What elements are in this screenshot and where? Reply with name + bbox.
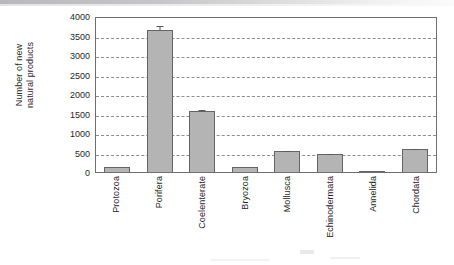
- bar-series: [96, 18, 436, 172]
- x-axis-category-label: Porifera: [154, 176, 164, 208]
- y-axis-tick-label: 1500: [52, 110, 90, 120]
- x-label-slot: Porifera: [138, 174, 181, 262]
- x-label-slot: Chordata: [394, 174, 437, 262]
- x-axis-category-label: Bryozoa: [240, 176, 250, 210]
- bar-slot: [96, 18, 139, 172]
- y-axis-tick-label: 2000: [52, 90, 90, 100]
- x-label-slot: Bryozoa: [223, 174, 266, 262]
- x-axis-category-label: Chordata: [411, 176, 421, 214]
- bar[interactable]: [232, 167, 258, 172]
- x-label-slot: Coelenterate: [181, 174, 224, 262]
- x-axis-category-label: Annelida: [368, 176, 378, 212]
- scan-artifact-top-band-secondary: [0, 4, 454, 6]
- y-axis-tick-label: 3000: [52, 51, 90, 61]
- y-axis-title-line-1: Number of new: [14, 44, 26, 106]
- error-bar-cap: [411, 149, 418, 150]
- y-axis-tick-label: 4000: [52, 12, 90, 22]
- y-axis-tick-label: 500: [52, 149, 90, 159]
- x-label-slot: Annelida: [352, 174, 395, 262]
- bar-slot: [139, 18, 182, 172]
- bar[interactable]: [189, 111, 215, 172]
- y-axis-tick-label: 2500: [52, 71, 90, 81]
- error-bar-cap: [284, 151, 291, 152]
- bar-slot: [224, 18, 267, 172]
- x-label-slot: Protozoa: [95, 174, 138, 262]
- error-bar-cap: [156, 26, 163, 27]
- y-axis-tick-label: 1000: [52, 129, 90, 139]
- x-axis-category-label: Coelenterate: [197, 176, 207, 229]
- x-axis-category-label: Echinodermata: [325, 176, 335, 238]
- y-axis-tick-label: 0: [52, 168, 90, 178]
- x-axis-category-label: Protozoa: [111, 176, 121, 213]
- x-label-slot: Echinodermata: [309, 174, 352, 262]
- bar[interactable]: [317, 154, 343, 172]
- y-axis-tick-labels: 05001000150020002500300035004000: [52, 17, 90, 173]
- x-label-slot: Mollusca: [266, 174, 309, 262]
- bar-slot: [351, 18, 394, 172]
- figure-canvas: Number of new natural products 050010001…: [0, 0, 454, 265]
- bar[interactable]: [104, 167, 130, 172]
- x-axis-category-labels: ProtozoaPoriferaCoelenterateBryozoaMollu…: [95, 174, 437, 262]
- bar[interactable]: [147, 30, 173, 172]
- bar[interactable]: [274, 151, 300, 172]
- bar-slot: [181, 18, 224, 172]
- error-bar-cap: [199, 110, 206, 111]
- y-axis-tick-label: 3500: [52, 32, 90, 42]
- y-axis-title-line-2: natural products: [25, 42, 37, 108]
- plot-area: [95, 17, 437, 173]
- bar-slot: [309, 18, 352, 172]
- bar[interactable]: [402, 149, 428, 172]
- error-bar-cap: [326, 154, 333, 155]
- x-axis-category-label: Mollusca: [282, 176, 292, 212]
- bar-slot: [266, 18, 309, 172]
- bar[interactable]: [359, 171, 385, 173]
- bar-slot: [394, 18, 437, 172]
- y-axis-title: Number of new natural products: [8, 20, 42, 130]
